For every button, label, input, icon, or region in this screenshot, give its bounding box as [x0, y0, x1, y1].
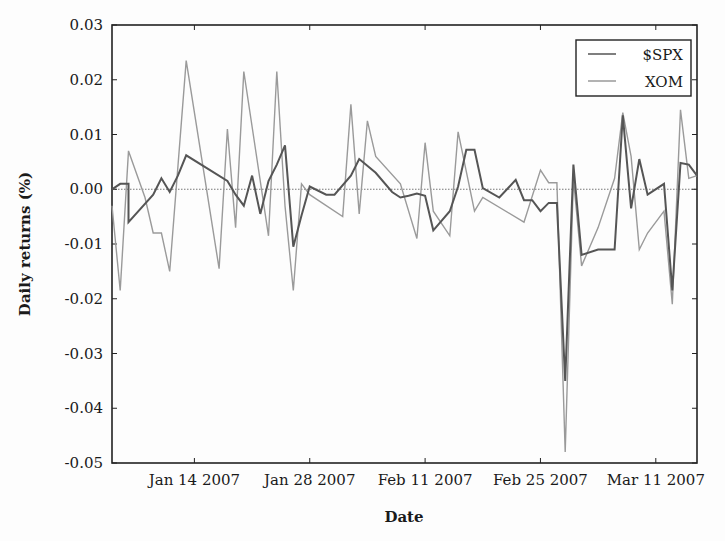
- series-line-spx: [112, 115, 697, 381]
- x-tick-label: Mar 11 2007: [607, 471, 705, 489]
- series-line-xom: [112, 61, 697, 453]
- line-chart: -0.05-0.04-0.03-0.02-0.010.000.010.020.0…: [0, 0, 725, 541]
- y-tick-label: 0.02: [70, 71, 103, 89]
- x-axis-title: Date: [384, 508, 423, 526]
- y-tick-label: 0.03: [70, 16, 103, 34]
- y-tick-label: -0.05: [65, 454, 103, 472]
- y-tick-label: 0.00: [70, 180, 103, 198]
- legend-label-spx: $SPX: [642, 46, 683, 64]
- y-tick-label: -0.03: [65, 345, 103, 363]
- legend: $SPX XOM: [576, 40, 691, 96]
- x-tick-label: Jan 14 2007: [147, 471, 240, 489]
- x-tick-label: Feb 11 2007: [378, 471, 473, 489]
- y-tick-label: -0.01: [65, 235, 103, 253]
- y-tick-label: -0.02: [65, 290, 103, 308]
- y-tick-label: 0.01: [70, 126, 103, 144]
- series-layer: [112, 61, 697, 453]
- y-tick-label: -0.04: [65, 399, 103, 417]
- y-axis-title: Daily returns (%): [16, 172, 34, 316]
- x-tick-label: Jan 28 2007: [262, 471, 355, 489]
- legend-label-xom: XOM: [645, 73, 683, 91]
- x-tick-label: Feb 25 2007: [493, 471, 588, 489]
